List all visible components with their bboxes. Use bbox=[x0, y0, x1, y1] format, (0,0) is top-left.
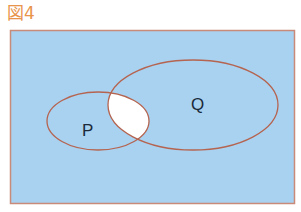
universe-rect bbox=[11, 31, 295, 204]
set-q-label: Q bbox=[191, 95, 204, 114]
venn-diagram: P Q bbox=[0, 0, 301, 212]
set-p-label: P bbox=[82, 121, 93, 140]
